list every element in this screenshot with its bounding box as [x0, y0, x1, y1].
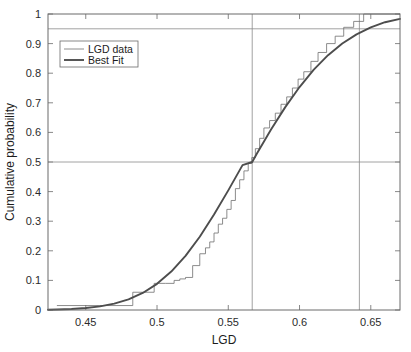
x-tick-label-2: 0.55	[218, 316, 239, 328]
legend: LGD dataBest Fit	[60, 41, 138, 67]
y-tick-label-9: 0.9	[26, 38, 41, 50]
x-tick-label-0: 0.45	[75, 316, 96, 328]
y-tick-label-2: 0.2	[26, 245, 41, 257]
y-tick-label-10: 1	[35, 8, 41, 20]
y-tick-label-6: 0.6	[26, 126, 41, 138]
y-tick-label-5: 0.5	[26, 156, 41, 168]
cdf-chart: 00.10.20.30.40.50.60.70.80.910.450.50.55…	[0, 0, 411, 352]
x-tick-label-1: 0.5	[149, 316, 164, 328]
y-tick-label-8: 0.8	[26, 67, 41, 79]
x-tick-label-4: 0.65	[360, 316, 381, 328]
y-axis-title: Cumulative probability	[3, 103, 17, 221]
figure-container: 00.10.20.30.40.50.60.70.80.910.450.50.55…	[0, 0, 411, 352]
legend-label-1: Best Fit	[88, 54, 124, 66]
x-axis-title: LGD	[212, 333, 237, 347]
y-tick-label-1: 0.1	[26, 274, 41, 286]
y-tick-label-0: 0	[35, 304, 41, 316]
y-tick-label-7: 0.7	[26, 97, 41, 109]
y-tick-label-4: 0.4	[26, 186, 41, 198]
x-tick-label-3: 0.6	[292, 316, 307, 328]
y-tick-label-3: 0.3	[26, 215, 41, 227]
